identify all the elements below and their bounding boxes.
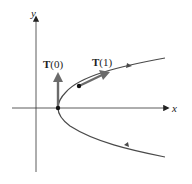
tangent-label-t1: T(1) [92, 56, 113, 69]
curve-direction-arrow-upper [126, 63, 132, 68]
y-axis-label: y [30, 7, 36, 19]
vertex-point [56, 106, 60, 110]
diagram: x y T(0) T(1) [0, 0, 192, 184]
x-axis-label: x [171, 102, 177, 114]
curve-direction-arrow-lower [124, 142, 129, 147]
tangent-label-t0: T(0) [43, 58, 64, 71]
t1-point [77, 84, 81, 88]
tangent-vector-t0-arrowhead [53, 72, 63, 82]
parabola-curve [58, 58, 165, 157]
